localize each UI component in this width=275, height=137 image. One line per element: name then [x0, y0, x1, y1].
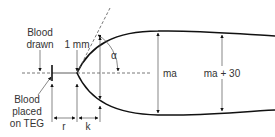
- teg-diagram: Blood drawn 1 mm α Blood placed on TEG r…: [0, 0, 275, 137]
- label-blood-placed-1: Blood: [14, 94, 40, 105]
- label-blood-placed-3: on TEG: [10, 118, 44, 129]
- teg-diagram-svg: Blood drawn 1 mm α Blood placed on TEG r…: [0, 0, 275, 137]
- label-ma-plus-30: ma + 30: [204, 68, 241, 79]
- label-ma: ma: [163, 68, 177, 79]
- label-k: k: [86, 121, 92, 132]
- label-r: r: [62, 121, 66, 132]
- label-one-mm: 1 mm: [65, 39, 90, 50]
- label-alpha: α: [111, 50, 117, 61]
- label-blood-placed-2: placed: [12, 106, 41, 117]
- label-blood-drawn-1: Blood: [27, 27, 53, 38]
- blood-placed-pointer: [38, 77, 51, 95]
- label-blood-drawn-2: drawn: [26, 39, 53, 50]
